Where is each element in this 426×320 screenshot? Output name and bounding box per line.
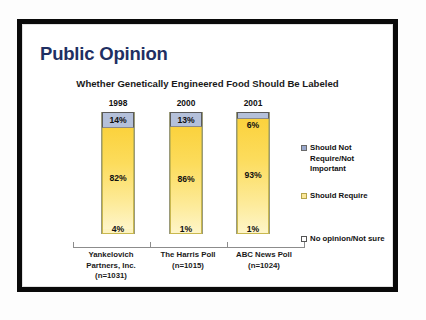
- legend-item-label: No opinion/Not sure: [310, 234, 385, 245]
- category-sample-size: (n=1015): [147, 261, 229, 272]
- legend-item-no-opinion[interactable]: No opinion/Not sure: [301, 234, 385, 245]
- stacked-bar[interactable]: 14% 82% 4%: [101, 112, 135, 234]
- x-axis-labels: Yankelovich Partners, Inc. (n=1031) The …: [73, 250, 305, 287]
- legend-item-should-require[interactable]: Should Require: [301, 191, 368, 202]
- bar-group-1998: 1998 14% 82% 4%: [87, 98, 149, 248]
- category-label-line1: Yankelovich: [88, 250, 133, 259]
- axis-tick: [227, 242, 228, 248]
- x-axis-line: [73, 247, 305, 248]
- bar-segment-should-require[interactable]: 82%: [102, 128, 134, 229]
- category-label-harris: The Harris Poll (n=1015): [147, 250, 229, 271]
- bar-segment-should-not-require[interactable]: [237, 112, 269, 119]
- bar-segment-value: 14%: [103, 115, 133, 125]
- bar-segment-no-opinion[interactable]: 4%: [102, 229, 134, 234]
- category-label-yankelovich: Yankelovich Partners, Inc. (n=1031): [70, 250, 152, 282]
- axis-tick: [73, 242, 74, 248]
- bar-segment-no-opinion[interactable]: 1%: [170, 233, 202, 234]
- legend-item-label: Should Require: [310, 191, 368, 202]
- bar-segment-should-not-require[interactable]: 13%: [170, 112, 202, 127]
- bar-year-label: 2001: [222, 98, 284, 108]
- category-sample-size: (n=1024): [223, 261, 305, 272]
- bar-year-label: 1998: [87, 98, 149, 108]
- bar-segment-value: 1%: [238, 224, 268, 234]
- legend-swatch-icon: [301, 145, 307, 151]
- bar-segment-value: 6%: [238, 120, 268, 130]
- bar-group-2001: 2001 6% 93% 1%: [222, 98, 284, 248]
- legend-swatch-icon: [301, 236, 307, 242]
- slide-frame: Public Opinion Whether Genetically Engin…: [17, 19, 398, 292]
- category-label-line2: Partners, Inc.: [70, 261, 152, 272]
- page-title: Public Opinion: [40, 43, 168, 65]
- stacked-bar[interactable]: 6% 93% 1%: [236, 112, 270, 234]
- bar-segment-should-not-require[interactable]: 14%: [102, 112, 134, 128]
- axis-tick: [150, 242, 151, 248]
- bar-year-label: 2000: [155, 98, 217, 108]
- category-label-line1: ABC News Poll: [236, 250, 292, 259]
- legend-swatch-icon: [301, 193, 307, 199]
- bar-segment-value: 82%: [103, 173, 133, 183]
- bar-segment-should-require[interactable]: 6% 93%: [237, 119, 269, 233]
- bar-group-2000: 2000 13% 86% 1%: [155, 98, 217, 248]
- bar-segment-value: 1%: [171, 224, 201, 234]
- category-label-line1: The Harris Poll: [160, 250, 215, 259]
- bar-segment-value: 86%: [171, 174, 201, 184]
- bar-segment-no-opinion[interactable]: 1%: [237, 233, 269, 234]
- chart-title: Whether Genetically Engineered Food Shou…: [23, 78, 392, 89]
- bar-segment-value: 93%: [238, 170, 268, 180]
- category-sample-size: (n=1031): [70, 271, 152, 282]
- bar-segment-value: 13%: [171, 115, 201, 125]
- slide-content: Public Opinion Whether Genetically Engin…: [22, 24, 393, 287]
- stacked-bar[interactable]: 13% 86% 1%: [169, 112, 203, 234]
- legend-item-should-not-require[interactable]: Should Not Require/Not Important: [301, 143, 354, 175]
- slide-canvas: Public Opinion Whether Genetically Engin…: [0, 0, 426, 320]
- category-label-abc-news: ABC News Poll (n=1024): [223, 250, 305, 271]
- chart-plot-area: 1998 14% 82% 4% 2000: [83, 98, 293, 248]
- bar-segment-should-require[interactable]: 86%: [170, 127, 202, 233]
- bar-segment-value: 4%: [103, 224, 133, 234]
- legend-item-label: Should Not Require/Not Important: [310, 143, 354, 175]
